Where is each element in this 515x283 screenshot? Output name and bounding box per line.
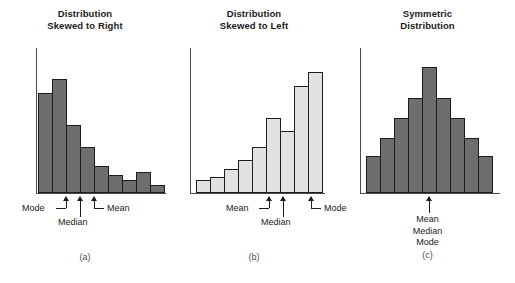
panel-b-plot <box>190 48 325 194</box>
histogram-bar <box>80 147 95 193</box>
histogram-bar <box>280 131 295 193</box>
histogram-bar <box>238 160 253 193</box>
panel-b-title-line1: Distribution <box>227 8 282 19</box>
histogram-bar <box>408 98 423 193</box>
panel-c-title-line2: Distribution <box>340 20 515 32</box>
histogram-bar <box>224 169 239 193</box>
panel-b-mode-elbow <box>311 207 321 209</box>
histogram-bar <box>294 86 309 193</box>
histogram-bar <box>150 185 165 193</box>
histogram-bar <box>436 98 451 193</box>
histogram-bar <box>308 72 323 193</box>
panel-c-caption: (c) <box>340 250 515 260</box>
histogram-bar <box>266 118 281 193</box>
histogram-bar <box>52 79 67 193</box>
histogram-bar <box>394 118 409 193</box>
panel-a-median-stem <box>80 201 81 217</box>
histogram-bar <box>366 156 381 193</box>
histogram-bar <box>252 147 267 193</box>
panel-c-center-stem <box>429 201 430 213</box>
histogram-bar <box>422 67 437 193</box>
panel-b-caption: (b) <box>168 252 340 262</box>
panel-a-title: Distribution Skewed to Right <box>0 8 170 32</box>
histogram-bar <box>122 180 137 193</box>
panel-a-mean-label: Mean <box>107 203 130 214</box>
panel-a-bars <box>38 48 164 193</box>
panel-skewed-left: Distribution Skewed to Left Mean Median … <box>168 0 340 283</box>
histogram-bar <box>478 156 493 193</box>
panel-a-mode-elbow <box>56 207 66 209</box>
histogram-bar <box>380 138 395 193</box>
panel-symmetric: Symmetric Distribution Mean Median Mode … <box>340 0 515 283</box>
panel-c-bars <box>366 48 492 193</box>
panel-b-mean-elbow <box>259 207 269 209</box>
panel-c-mean-label: Mean <box>340 214 515 226</box>
panel-c-y-axis <box>360 48 361 194</box>
panel-a-mode-stem <box>66 201 67 208</box>
histogram-bar <box>94 166 109 193</box>
panel-b-mean-stem <box>269 201 270 208</box>
panel-a-y-axis <box>36 48 37 194</box>
histogram-bar <box>464 138 479 193</box>
histogram-bar <box>450 118 465 193</box>
panel-c-center-labels: Mean Median Mode <box>340 214 515 249</box>
panel-b-median-stem <box>283 201 284 217</box>
histogram-bar <box>136 172 151 193</box>
panel-c-x-axis <box>360 193 500 194</box>
panel-a-title-line1: Distribution <box>58 8 113 19</box>
panel-b-bars <box>196 48 322 193</box>
panel-c-plot <box>360 48 500 194</box>
panel-a-median-label: Median <box>58 217 88 228</box>
panel-b-y-axis <box>190 48 191 194</box>
panel-b-title: Distribution Skewed to Left <box>168 8 340 32</box>
panel-b-median-label: Median <box>261 217 291 228</box>
panel-c-mode-label: Mode <box>340 237 515 249</box>
panel-b-x-axis <box>190 193 325 194</box>
panel-c-title-line1: Symmetric <box>403 8 452 19</box>
histogram-bar <box>66 125 81 193</box>
panel-skewed-right: Distribution Skewed to Right Mode Median… <box>0 0 170 283</box>
panel-a-mean-elbow <box>94 207 104 209</box>
histogram-bar <box>210 177 225 193</box>
panel-b-title-line2: Skewed to Left <box>168 20 340 32</box>
panel-a-x-axis <box>36 193 166 194</box>
histogram-bar <box>196 180 211 193</box>
panel-a-caption: (a) <box>0 252 170 262</box>
panel-a-mode-label: Mode <box>22 203 45 214</box>
panel-a-plot <box>36 48 166 194</box>
panel-c-median-label: Median <box>340 226 515 238</box>
panel-c-title: Symmetric Distribution <box>340 8 515 32</box>
panel-b-mean-label: Mean <box>226 203 249 214</box>
three-distributions-figure: Distribution Skewed to Right Mode Median… <box>0 0 515 283</box>
histogram-bar <box>38 93 53 193</box>
panel-a-title-line2: Skewed to Right <box>0 20 170 32</box>
histogram-bar <box>108 175 123 193</box>
